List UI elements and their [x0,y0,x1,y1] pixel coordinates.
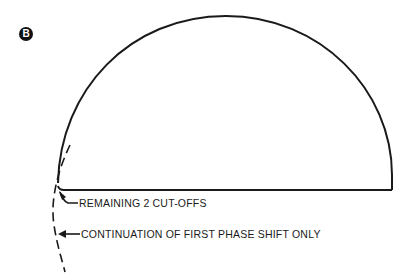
semicircle-arc [58,16,392,190]
remaining-cutoffs-arrowhead [59,191,66,200]
continuation-label: CONTINUATION OF FIRST PHASE SHIFT ONLY [81,228,321,240]
dashed-continuation-curve [53,145,70,272]
baseline [58,186,392,190]
continuation-arrowhead [58,230,66,238]
remaining-cutoffs-label: REMAINING 2 CUT-OFFS [79,197,207,209]
